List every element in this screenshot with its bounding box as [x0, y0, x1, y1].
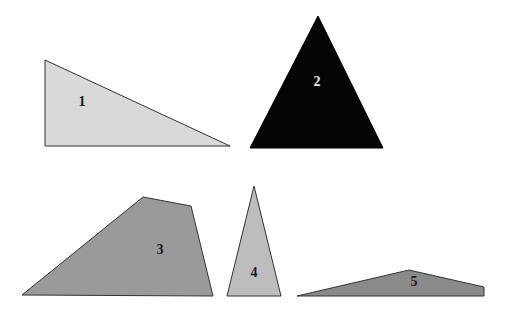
shape-4-label: 4	[251, 265, 258, 280]
shape-3-label: 3	[157, 242, 164, 257]
shape-2-label: 2	[314, 74, 321, 89]
shape-1: 1	[45, 60, 230, 146]
shape-3-polygon	[22, 197, 213, 296]
shapes-canvas: 1 2 3 4 5	[0, 0, 509, 313]
shape-1-label: 1	[79, 94, 86, 109]
shape-1-polygon	[45, 60, 230, 146]
shape-4: 4	[227, 186, 281, 296]
shape-5-label: 5	[411, 274, 418, 289]
shape-2: 2	[250, 16, 383, 148]
shape-3: 3	[22, 197, 213, 296]
shape-5-polygon	[297, 270, 484, 296]
shape-5: 5	[297, 270, 484, 296]
